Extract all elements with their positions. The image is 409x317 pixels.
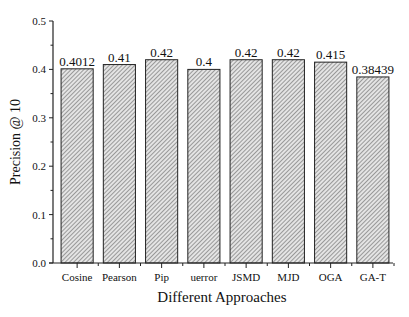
bar-cosine [61, 69, 93, 263]
y-tick-label: 0.4 [32, 63, 46, 75]
x-tick-label: GA-T [360, 271, 387, 283]
y-tick-labels: 0.00.10.20.30.40.5 [32, 15, 46, 269]
y-tick-label: 0.3 [32, 112, 46, 124]
x-tick-label: Pearson [102, 271, 137, 283]
x-tick-label: JSMD [232, 271, 260, 283]
bars-group [61, 60, 389, 263]
x-tick-label: Pip [154, 271, 169, 283]
x-tick-label: MJD [277, 271, 299, 283]
bar-pearson [103, 65, 135, 263]
value-label: 0.4012 [59, 54, 95, 69]
y-tick-label: 0.0 [32, 257, 46, 269]
y-tick-label: 0.2 [32, 160, 46, 172]
value-label: 0.38439 [352, 62, 394, 77]
y-tick-label: 0.1 [32, 209, 46, 221]
value-label: 0.42 [150, 45, 173, 60]
bar-pip [146, 60, 178, 263]
x-tick-labels: CosinePearsonPipuerrorJSMDMJDOGAGA-T [62, 271, 386, 283]
bar-chart: 0.40120.410.420.40.420.420.4150.38439 Co… [0, 0, 409, 317]
y-tick-label: 0.5 [32, 15, 46, 27]
bar-oga [315, 62, 347, 263]
x-tick-label: Cosine [62, 271, 93, 283]
x-tick-label: uerror [190, 271, 217, 283]
x-tick-label: OGA [319, 271, 343, 283]
value-label: 0.42 [235, 45, 258, 60]
bar-ga-t [357, 77, 389, 263]
bar-mjd [272, 60, 304, 263]
bar-jsmd [230, 60, 262, 263]
value-label: 0.415 [316, 47, 345, 62]
bar-uerror [188, 69, 220, 263]
value-label: 0.4 [196, 54, 213, 69]
value-label: 0.41 [108, 50, 131, 65]
x-axis-label: Different Approaches [157, 289, 286, 305]
y-axis-label: Precision @ 10 [8, 99, 23, 185]
value-label: 0.42 [277, 45, 300, 60]
